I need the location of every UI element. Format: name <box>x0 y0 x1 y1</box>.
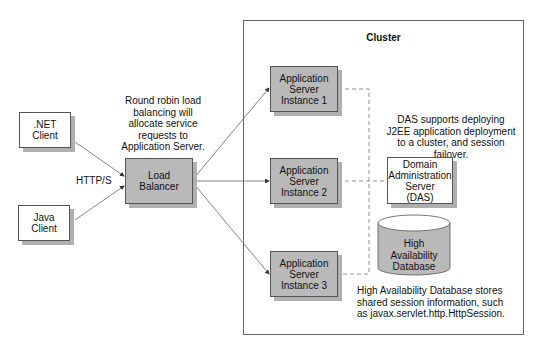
database-note: High Availability Database storesshared … <box>357 285 505 320</box>
database-label: HighAvailabilityDatabase <box>378 238 450 273</box>
cluster-architecture-diagram: Cluster .NETClient JavaClient HTTP/S Loa… <box>0 0 542 351</box>
